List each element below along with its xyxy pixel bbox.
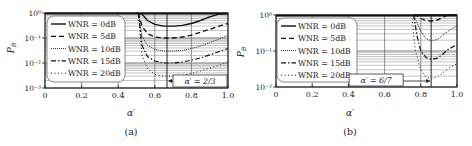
legend-entry: WNR = 20dB — [298, 71, 351, 80]
annotation: α′ = 2/3 — [168, 75, 227, 87]
x-tick-label: 0.8 — [414, 90, 427, 99]
legend-entry: WNR = 20dB — [68, 69, 121, 78]
annotation: α′ = 6/7 — [349, 74, 430, 86]
legend-entry: WNR = 15dB — [298, 59, 351, 68]
y-tick-label: 10⁻¹ — [255, 47, 272, 56]
annotation-label: α′ = 6/7 — [361, 76, 392, 85]
annotation-label: α′ = 2/3 — [184, 77, 215, 86]
x-tick-label: 0.6 — [378, 90, 391, 99]
legend: WNR = 0dBWNR = 5dBWNR = 10dBWNR = 15dBWN… — [47, 16, 125, 82]
y-tick-label: 10⁻² — [24, 59, 41, 68]
legend-entry: WNR = 0dB — [68, 20, 116, 29]
legend-entry: WNR = 0dB — [298, 22, 346, 31]
x-tick-label: 0.4 — [342, 90, 355, 99]
x-tick-label: 0.8 — [185, 91, 198, 100]
legend-entry: WNR = 10dB — [298, 47, 351, 56]
legend: WNR = 0dBWNR = 5dBWNR = 10dBWNR = 15dBWN… — [277, 18, 357, 82]
x-tick-label: 0 — [42, 91, 47, 100]
series-line-4 — [412, 15, 457, 79]
figure: 00.20.40.60.81.010⁰10⁻¹10⁻²10⁻³α′PBWNR =… — [0, 0, 472, 146]
panel-label: (b) — [343, 126, 357, 137]
y-tick-label: 10⁰ — [259, 11, 272, 20]
panel-label: (a) — [124, 126, 137, 137]
x-tick-label: 1.0 — [222, 91, 235, 100]
y-tick-label: 10⁰ — [28, 9, 41, 18]
x-tick-label: 0.2 — [75, 91, 88, 100]
series-group — [412, 15, 457, 79]
chart-panel-a: 00.20.40.60.81.010⁰10⁻¹10⁻²10⁻³α′PBWNR =… — [6, 9, 234, 137]
legend-entry: WNR = 15dB — [68, 57, 121, 66]
series-line-2 — [414, 15, 457, 41]
y-tick-label: 10⁻³ — [24, 84, 41, 93]
x-tick-label: 0.6 — [148, 91, 161, 100]
x-tick-label: 0.2 — [306, 90, 319, 99]
legend-entry: WNR = 5dB — [68, 32, 116, 41]
y-tick-label: 10⁻² — [255, 83, 272, 92]
y-axis-label: PB — [6, 42, 17, 54]
y-axis-label: PB — [236, 46, 247, 58]
y-tick-label: 10⁻¹ — [24, 34, 41, 43]
x-tick-label: 1.0 — [451, 90, 464, 99]
x-tick-label: 0.4 — [112, 91, 125, 100]
chart-panel-b: 00.20.40.60.81.010⁰10⁻¹10⁻²α′PBWNR = 0dB… — [236, 11, 463, 137]
x-axis-label: α′ — [346, 108, 354, 118]
legend-entry: WNR = 5dB — [298, 34, 346, 43]
x-axis-label: α′ — [127, 108, 135, 118]
series-line-0 — [137, 13, 229, 26]
legend-entry: WNR = 10dB — [68, 45, 121, 54]
x-tick-label: 0 — [273, 90, 278, 99]
